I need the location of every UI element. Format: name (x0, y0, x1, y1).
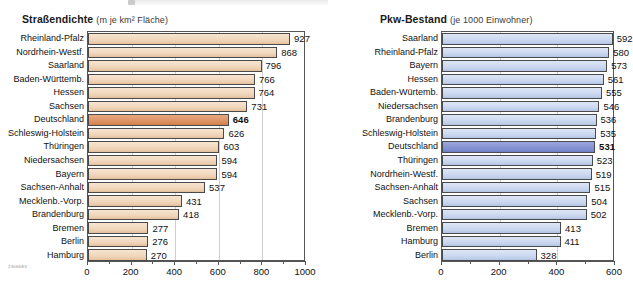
bar-rows-pkw-bestand: Saarland592Rheinland-Pfalz580Bayern573He… (442, 32, 613, 260)
bar[interactable] (442, 114, 597, 126)
x-axis-tick-label: 0 (84, 267, 89, 277)
bar[interactable] (88, 249, 147, 261)
bar-value-label: 519 (596, 170, 612, 180)
bar-row: Hamburg270 (88, 248, 304, 262)
plot-area-pkw-bestand: Saarland592Rheinland-Pfalz580Bayern573He… (441, 31, 614, 261)
category-label: Nordrhein-Westf. (370, 170, 438, 179)
bar-row: Rheinland-Pfalz580 (442, 46, 613, 60)
bar-value-label: 868 (281, 48, 297, 58)
bar-value-label: 796 (266, 61, 282, 71)
bar[interactable] (442, 87, 602, 99)
bar[interactable] (88, 101, 247, 113)
bar[interactable] (442, 155, 593, 167)
bar[interactable] (88, 60, 262, 72)
bar-row: Bremen277 (88, 221, 304, 235)
bar[interactable] (88, 74, 255, 86)
bar-value-label: 535 (600, 129, 616, 139)
x-axis-tick-label: 400 (166, 267, 182, 277)
category-label: Thüringen (397, 156, 438, 165)
category-label: Sachsen-Anhalt (374, 183, 438, 192)
bar-row: Sachsen-Anhalt515 (442, 181, 613, 195)
x-axis-minor-tick (152, 261, 153, 264)
bar-row: Brandenburg418 (88, 208, 304, 222)
bar-value-label: 515 (594, 183, 610, 193)
bar[interactable] (442, 222, 561, 234)
bar-row: Thüringen523 (442, 154, 613, 168)
bar[interactable] (442, 168, 592, 180)
bar[interactable] (442, 195, 587, 207)
bar[interactable] (88, 195, 182, 207)
bar[interactable] (88, 128, 224, 140)
bar[interactable] (442, 128, 596, 140)
x-axis-tick (131, 261, 132, 265)
x-axis-tick (174, 261, 175, 265)
x-axis-minor-tick (109, 261, 110, 264)
bar-row: Deutschland646 (88, 113, 304, 127)
bar[interactable] (88, 155, 217, 167)
category-label: Niedersachsen (24, 156, 84, 165)
x-axis-tick (614, 261, 615, 265)
bar[interactable] (442, 47, 609, 59)
bar[interactable] (88, 47, 277, 59)
x-axis-tick-label: 600 (210, 267, 226, 277)
bar-highlighted[interactable] (88, 114, 229, 126)
bar-row: Bayern594 (88, 167, 304, 181)
bar-row: Thüringen603 (88, 140, 304, 154)
category-label: Hamburg (47, 251, 84, 260)
chart-panel-strassendichte: Straßendichte (m je km² Fläche) Rheinlan… (0, 0, 314, 285)
bar[interactable] (442, 74, 604, 86)
bar-value-label: 573 (611, 61, 627, 71)
bar-row: Deutschland531 (442, 140, 613, 154)
x-axis-tick (261, 261, 262, 265)
bar-value-label: 580 (613, 48, 629, 58)
bar-value-label: 411 (565, 237, 580, 247)
category-label: Schleswig-Holstein (8, 129, 84, 138)
bar[interactable] (88, 33, 290, 45)
bar-row: Bremen413 (442, 221, 613, 235)
x-axis-tick (87, 261, 88, 265)
category-label: Brandenburg (386, 115, 438, 124)
bar-row: Niedersachsen594 (88, 154, 304, 168)
bar-value-label: 927 (294, 34, 310, 44)
x-axis-tick-label: 200 (123, 267, 139, 277)
bar[interactable] (88, 236, 148, 248)
bar-value-label: 594 (221, 156, 237, 166)
source-code-label: 23066EX (8, 264, 27, 269)
bar-value-label: 531 (599, 142, 615, 152)
bar[interactable] (88, 168, 217, 180)
bar-row: Saarland796 (88, 59, 304, 73)
x-axis-tick (499, 261, 500, 265)
chart-subtitle-text: (m je km² Fläche) (96, 15, 168, 25)
bar[interactable] (442, 209, 587, 221)
bar-row: Hessen764 (88, 86, 304, 100)
bar-value-label: 561 (608, 75, 624, 85)
bar[interactable] (442, 249, 537, 261)
bar[interactable] (88, 209, 179, 221)
bar-row: Schleswig-Holstein535 (442, 127, 613, 141)
category-label: Hessen (407, 75, 438, 84)
bar[interactable] (88, 141, 219, 153)
bar-value-label: 504 (591, 197, 607, 207)
bar[interactable] (442, 101, 599, 113)
bar-value-label: 603 (223, 142, 239, 152)
bar-row: Sachsen-Anhalt537 (88, 181, 304, 195)
bar[interactable] (88, 182, 205, 194)
bar[interactable] (442, 33, 613, 45)
bar[interactable] (442, 60, 607, 72)
bar[interactable] (88, 87, 255, 99)
category-label: Saarland (48, 61, 84, 70)
bar-row: Mecklenb.-Vorp.502 (442, 208, 613, 222)
bar-highlighted[interactable] (442, 141, 595, 153)
bar[interactable] (442, 236, 561, 248)
x-axis-tick-label: 1000 (294, 267, 315, 277)
bar-row: Rheinland-Pfalz927 (88, 32, 304, 46)
bar-rows-strassendichte: Rheinland-Pfalz927Nordrhein-Westf.868Saa… (88, 32, 304, 260)
bar-value-label: 626 (228, 129, 244, 139)
x-axis-tick-label: 200 (491, 267, 507, 277)
bar[interactable] (88, 222, 148, 234)
bar-row: Hamburg411 (442, 235, 613, 249)
bar-value-label: 270 (151, 251, 167, 261)
bar-value-label: 277 (152, 224, 168, 234)
bar-row: Saarland592 (442, 32, 613, 46)
bar[interactable] (442, 182, 590, 194)
